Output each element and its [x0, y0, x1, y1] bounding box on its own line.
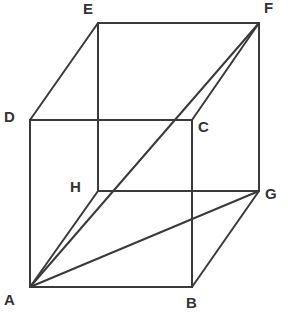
edge-cf [192, 23, 259, 120]
vertex-label-e: E [83, 0, 93, 17]
vertex-label-f: F [264, 0, 273, 16]
vertex-label-d: D [4, 108, 15, 125]
vertex-label-a: A [4, 291, 15, 308]
cube-edges [30, 23, 259, 287]
vertex-label-c: C [198, 118, 209, 135]
vertex-label-g: G [265, 185, 277, 202]
vertex-label-b: B [186, 294, 197, 311]
edge-af [30, 23, 259, 287]
vertex-label-h: H [70, 178, 81, 195]
cube-diagram: A B C D E F G H [0, 0, 288, 313]
edge-de [30, 23, 98, 120]
